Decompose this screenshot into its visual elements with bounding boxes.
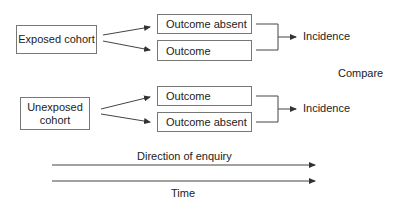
unexposed-cohort-label-line1: Unexposed [27,101,83,114]
exposed-outcome-label: Outcome [166,45,211,57]
exposed-cohort-label: Exposed cohort [18,33,94,46]
exposed-cohort-box: Exposed cohort [16,25,97,54]
unexposed-cohort-label-line2: cohort [40,114,71,127]
exposed-outcome-box: Outcome [157,40,252,61]
unexposed-outcome-label: Outcome [166,90,211,102]
unexposed-outcome-absent-box: Outcome absent [157,112,252,132]
exposed-outcome-absent-box: Outcome absent [157,14,252,34]
unexposed-outcome-absent-label: Outcome absent [166,116,247,128]
unexposed-cohort-box: Unexposed cohort [20,97,90,130]
exposed-outcome-absent-label: Outcome absent [166,18,247,30]
exposed-incidence-label: Incidence [303,30,350,42]
compare-label: Compare [338,67,383,79]
direction-of-enquiry-label: Direction of enquiry [137,150,232,162]
time-label: Time [171,187,195,199]
unexposed-outcome-box: Outcome [157,86,252,106]
unexposed-incidence-label: Incidence [303,102,350,114]
